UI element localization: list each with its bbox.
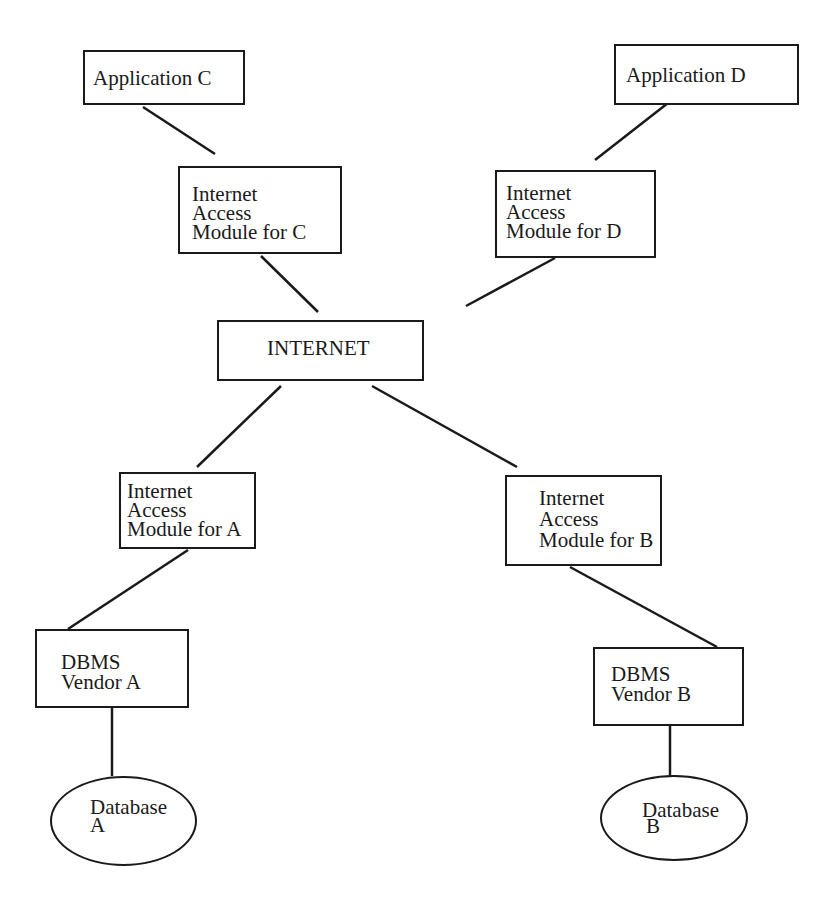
- iam-a-line-3: Module for A: [127, 520, 241, 539]
- application-d-label: Application D: [626, 63, 746, 87]
- dbms-b-line-2: Vendor B: [611, 685, 691, 704]
- internet-access-module-b-box: Internet Access Module for B: [505, 475, 662, 566]
- edge-internet-to-iam-b: [372, 386, 517, 467]
- dbms-a-line-2: Vendor A: [61, 673, 141, 692]
- application-c-box: Application C: [83, 50, 245, 105]
- iam-b-line-2: Access: [539, 510, 598, 529]
- iam-b-line-1: Internet: [539, 489, 604, 508]
- dbms-vendor-b-box: DBMS Vendor B: [593, 647, 744, 726]
- internet-label: INTERNET: [267, 336, 370, 360]
- internet-access-module-c-box: Internet Access Module for C: [178, 166, 342, 254]
- iam-b-line-3: Module for B: [539, 531, 653, 550]
- application-d-box: Application D: [614, 44, 799, 105]
- database-a-ellipse: Database A: [50, 776, 197, 866]
- connector-lines: [0, 0, 838, 900]
- edge-iam-b-to-dbms-b: [570, 567, 717, 647]
- edge-app-d-to-iam-d: [595, 103, 668, 160]
- database-b-ellipse: Database B: [600, 775, 748, 861]
- dbms-vendor-a-box: DBMS Vendor A: [35, 629, 189, 708]
- internet-box: INTERNET: [217, 320, 424, 381]
- internet-access-module-a-box: Internet Access Module for A: [119, 472, 256, 549]
- db-a-line-2: A: [90, 816, 105, 835]
- iam-d-line-3: Module for D: [506, 222, 621, 241]
- edge-iam-a-to-dbms-a: [68, 550, 188, 629]
- internet-access-module-d-box: Internet Access Module for D: [495, 170, 656, 258]
- edge-app-c-to-iam-c: [143, 107, 215, 154]
- db-b-line-2: B: [646, 817, 660, 836]
- edge-iam-d-to-internet: [466, 258, 555, 306]
- iam-c-line-3: Module for C: [192, 223, 306, 242]
- edge-iam-c-to-internet: [261, 256, 318, 312]
- edge-internet-to-iam-a: [197, 386, 281, 467]
- application-c-label: Application C: [93, 66, 211, 90]
